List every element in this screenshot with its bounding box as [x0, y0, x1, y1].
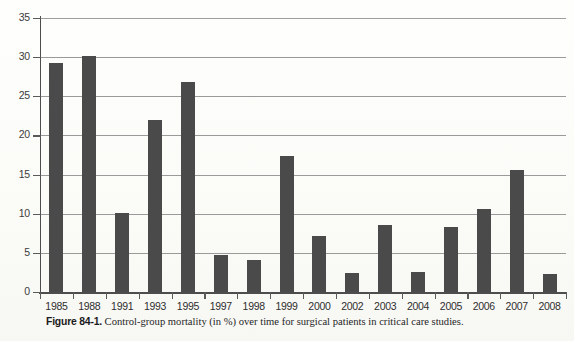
x-tick-label-1991: 1991 — [106, 300, 139, 312]
bar-2008 — [543, 274, 557, 292]
x-tick-mark-15 — [533, 292, 534, 299]
y-tick-mark-5 — [33, 253, 41, 254]
y-tick-label-30: 30 — [4, 50, 30, 62]
figure-caption-label: Figure 84-1. — [46, 316, 102, 327]
figure-container: 05101520253035 1985198819911993199519971… — [0, 0, 574, 341]
x-tick-mark-13 — [467, 292, 468, 299]
x-tick-label-2007: 2007 — [500, 300, 533, 312]
gridline-30 — [40, 57, 566, 58]
plot-area — [40, 18, 566, 292]
y-tick-mark-25 — [33, 96, 41, 97]
x-tick-mark-11 — [402, 292, 403, 299]
bar-1995 — [181, 82, 195, 292]
y-tick-label-15: 15 — [4, 168, 30, 180]
bar-1999 — [280, 156, 294, 292]
gridline-15 — [40, 175, 566, 176]
x-tick-label-2003: 2003 — [369, 300, 402, 312]
y-tick-label-0: 0 — [4, 285, 30, 297]
x-tick-label-2004: 2004 — [402, 300, 435, 312]
x-tick-label-2006: 2006 — [467, 300, 500, 312]
x-tick-mark-3 — [139, 292, 140, 299]
bar-2005 — [444, 227, 458, 292]
x-tick-label-1997: 1997 — [204, 300, 237, 312]
y-tick-mark-35 — [33, 18, 41, 19]
x-tick-mark-6 — [237, 292, 238, 299]
x-tick-mark-10 — [369, 292, 370, 299]
x-tick-label-1995: 1995 — [172, 300, 205, 312]
gridline-35 — [40, 18, 566, 19]
x-tick-mark-end — [566, 292, 567, 299]
y-tick-label-25: 25 — [4, 89, 30, 101]
bar-2006 — [477, 209, 491, 292]
bar-1991 — [115, 213, 129, 292]
y-tick-mark-20 — [33, 135, 41, 136]
x-tick-mark-7 — [270, 292, 271, 299]
bar-1998 — [247, 260, 261, 292]
x-tick-mark-12 — [435, 292, 436, 299]
bar-2007 — [510, 170, 524, 292]
bar-1988 — [82, 56, 96, 292]
bar-2003 — [378, 225, 392, 292]
bar-2004 — [411, 272, 425, 292]
y-tick-mark-15 — [33, 175, 41, 176]
y-tick-label-35: 35 — [4, 11, 30, 23]
x-tick-mark-9 — [336, 292, 337, 299]
x-tick-label-2008: 2008 — [533, 300, 566, 312]
y-tick-label-5: 5 — [4, 246, 30, 258]
bar-2002 — [345, 273, 359, 292]
x-tick-mark-5 — [204, 292, 205, 299]
gridline-20 — [40, 135, 566, 136]
x-tick-mark-2 — [106, 292, 107, 299]
y-tick-label-10: 10 — [4, 207, 30, 219]
bar-1993 — [148, 120, 162, 292]
gridline-25 — [40, 96, 566, 97]
x-tick-label-2002: 2002 — [336, 300, 369, 312]
x-tick-label-1998: 1998 — [237, 300, 270, 312]
bar-1985 — [49, 63, 63, 292]
x-tick-mark-8 — [303, 292, 304, 299]
bar-1997 — [214, 255, 228, 292]
x-tick-label-2000: 2000 — [303, 300, 336, 312]
x-tick-mark-4 — [172, 292, 173, 299]
x-tick-label-1985: 1985 — [40, 300, 73, 312]
y-tick-mark-10 — [33, 214, 41, 215]
figure-caption-text: Control-group mortality (in %) over time… — [105, 316, 464, 327]
x-tick-mark-14 — [500, 292, 501, 299]
x-tick-mark-0 — [40, 292, 41, 299]
x-tick-label-1988: 1988 — [73, 300, 106, 312]
x-tick-mark-1 — [73, 292, 74, 299]
figure-caption: Figure 84-1. Control-group mortality (in… — [46, 315, 546, 328]
y-tick-label-20: 20 — [4, 128, 30, 140]
x-tick-label-2005: 2005 — [435, 300, 468, 312]
bar-2000 — [312, 236, 326, 292]
x-tick-label-1993: 1993 — [139, 300, 172, 312]
x-tick-label-1999: 1999 — [270, 300, 303, 312]
y-tick-mark-30 — [33, 57, 41, 58]
